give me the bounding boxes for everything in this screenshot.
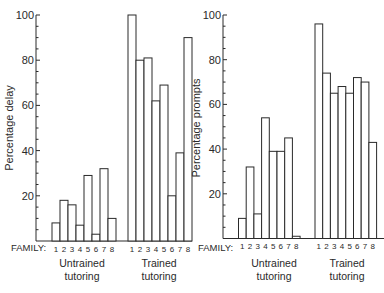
bar-family-5: [346, 93, 354, 238]
bar-family-5: [84, 175, 92, 241]
y-tick-label: 100: [16, 9, 34, 21]
bar-family-5: [160, 85, 168, 241]
x-category-label: 1: [240, 242, 245, 251]
bar-family-1: [239, 218, 247, 238]
x-category-label: 5: [347, 242, 352, 251]
x-category-label: 6: [94, 245, 99, 254]
x-category-label: 4: [154, 245, 159, 254]
series-trained-tutoring: 12345678: [315, 24, 377, 251]
x-category-label: 5: [162, 245, 167, 254]
right-family-label: FAMILY:: [198, 242, 233, 253]
right-untrained-label-2: tutoring: [256, 270, 291, 282]
left-untrained-label-2: tutoring: [64, 270, 99, 282]
series-trained-tutoring: 12345678: [128, 15, 192, 254]
x-category-label: 3: [256, 242, 261, 251]
x-category-label: 5: [271, 242, 276, 251]
x-category-label: 8: [371, 242, 376, 251]
bar-family-3: [144, 58, 152, 241]
y-tick-label: 60: [209, 98, 221, 110]
x-category-label: 8: [110, 245, 115, 254]
series-untrained-tutoring: 12345678: [52, 169, 116, 254]
left-y-axis-title: Percentage delay: [3, 85, 15, 171]
bar-family-1: [128, 15, 136, 241]
y-tick-label: 80: [22, 54, 34, 66]
x-category-label: 7: [363, 242, 368, 251]
x-category-label: 6: [170, 245, 175, 254]
left-trained-label-2: tutoring: [141, 270, 176, 282]
bar-family-7: [361, 82, 369, 238]
y-tick-label: 20: [22, 190, 34, 202]
bar-family-6: [92, 234, 100, 241]
bar-family-6: [354, 78, 362, 239]
bar-family-6: [277, 151, 285, 238]
y-tick-label: 40: [209, 143, 221, 155]
bar-family-1: [52, 223, 60, 241]
right-untrained-label-1: Untrained: [251, 257, 297, 269]
bar-family-4: [262, 118, 270, 239]
x-category-label: 6: [279, 242, 284, 251]
x-category-label: 6: [355, 242, 360, 251]
x-category-label: 1: [130, 245, 135, 254]
bar-family-4: [152, 101, 160, 241]
bar-family-7: [100, 169, 108, 241]
right-chart-percentage-prompts: 204060801001234567812345678: [203, 9, 384, 251]
x-category-label: 4: [263, 242, 268, 251]
x-category-label: 7: [178, 245, 183, 254]
x-category-label: 3: [146, 245, 151, 254]
left-family-label: FAMILY:: [11, 242, 46, 253]
y-tick-label: 80: [209, 54, 221, 66]
series-untrained-tutoring: 12345678: [239, 118, 301, 251]
left-chart-percentage-delay: 204060801001234567812345678: [16, 9, 192, 254]
left-trained-label-1: Trained: [141, 257, 176, 269]
right-trained-label-2: tutoring: [329, 270, 364, 282]
bar-charts-figure: 204060801001234567812345678 204060801001…: [0, 0, 384, 293]
x-category-label: 2: [138, 245, 143, 254]
x-category-label: 8: [186, 245, 191, 254]
bar-family-2: [246, 167, 254, 239]
bar-family-5: [269, 151, 277, 238]
x-category-label: 5: [86, 245, 91, 254]
bar-family-2: [323, 73, 331, 238]
x-category-label: 2: [324, 242, 329, 251]
y-tick-label: 20: [209, 188, 221, 200]
y-tick-label: 100: [203, 9, 221, 21]
left-untrained-label-1: Untrained: [59, 257, 105, 269]
right-y-axis-title: Percentage prompts: [190, 78, 202, 178]
bar-family-6: [168, 196, 176, 241]
bar-family-7: [176, 153, 184, 241]
bar-family-1: [315, 24, 323, 239]
x-category-label: 7: [102, 245, 107, 254]
x-category-label: 3: [70, 245, 75, 254]
x-category-label: 4: [78, 245, 83, 254]
y-tick-label: 40: [22, 145, 34, 157]
bar-family-3: [68, 205, 76, 241]
bar-family-2: [60, 200, 68, 241]
x-category-label: 1: [317, 242, 322, 251]
y-tick-label: 60: [22, 99, 34, 111]
x-category-label: 2: [248, 242, 253, 251]
right-trained-label-1: Trained: [329, 257, 364, 269]
bar-family-7: [285, 138, 293, 239]
bar-family-3: [330, 93, 338, 238]
bar-family-3: [254, 214, 262, 239]
x-category-label: 4: [340, 242, 345, 251]
bar-family-8: [292, 236, 300, 238]
bar-family-8: [369, 142, 377, 238]
bar-family-4: [338, 87, 346, 239]
x-category-label: 7: [286, 242, 291, 251]
x-category-label: 8: [294, 242, 299, 251]
bar-family-4: [76, 225, 84, 241]
x-category-label: 1: [54, 245, 59, 254]
bar-family-2: [136, 60, 144, 241]
x-category-label: 3: [332, 242, 337, 251]
x-category-label: 2: [62, 245, 67, 254]
bar-family-8: [108, 218, 116, 241]
